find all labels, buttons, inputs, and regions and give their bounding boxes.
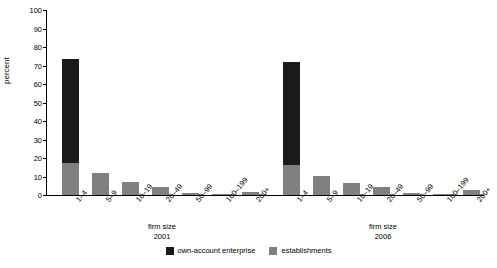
group-axis-title: firm size [353, 222, 413, 232]
y-tick-mark [43, 140, 46, 141]
y-tick-mark [43, 195, 46, 196]
y-tick-label: 0 [38, 191, 42, 200]
y-axis-label: percent [2, 57, 11, 84]
legend-item: establishments [269, 246, 331, 255]
y-tick-mark [43, 177, 46, 178]
legend-swatch [269, 247, 277, 255]
bar [283, 62, 300, 195]
bar-chart: percent 0102030405060708090100 1–45–910–… [0, 0, 497, 268]
y-tick-mark [43, 10, 46, 11]
y-tick-label: 30 [34, 135, 42, 144]
bar-segment-establishments [283, 165, 300, 195]
legend-item: own-account enterprise [166, 246, 256, 255]
legend-label: own-account enterprise [178, 246, 256, 255]
group-year: 2006 [353, 232, 413, 242]
y-tick-label: 80 [34, 43, 42, 52]
y-tick-label: 100 [29, 6, 42, 15]
legend-label: establishments [281, 246, 331, 255]
bar-segment-establishments [92, 173, 109, 195]
group-label: firm size2006 [353, 222, 413, 241]
y-tick-mark [43, 47, 46, 48]
y-tick-mark [43, 66, 46, 67]
bar-segment-own-account [62, 59, 79, 163]
bar [62, 59, 79, 195]
group-label: firm size2001 [132, 222, 192, 241]
group-axis-title: firm size [132, 222, 192, 232]
chart-legend: own-account enterpriseestablishments [0, 246, 497, 255]
group-year: 2001 [132, 232, 192, 242]
y-tick-label: 10 [34, 172, 42, 181]
y-tick-mark [43, 84, 46, 85]
y-tick-label: 70 [34, 61, 42, 70]
plot-area: 0102030405060708090100 [46, 10, 484, 195]
y-tick-mark [43, 29, 46, 30]
legend-swatch [166, 247, 174, 255]
y-tick-label: 50 [34, 98, 42, 107]
bar-segment-establishments [62, 163, 79, 195]
y-tick-label: 60 [34, 80, 42, 89]
y-tick-mark [43, 103, 46, 104]
y-tick-label: 20 [34, 154, 42, 163]
y-tick-label: 40 [34, 117, 42, 126]
y-tick-label: 90 [34, 24, 42, 33]
bar-segment-own-account [283, 62, 300, 166]
bar [313, 176, 330, 195]
bar [92, 173, 109, 195]
y-tick-mark [43, 121, 46, 122]
y-tick-mark [43, 158, 46, 159]
bar-segment-establishments [313, 176, 330, 195]
